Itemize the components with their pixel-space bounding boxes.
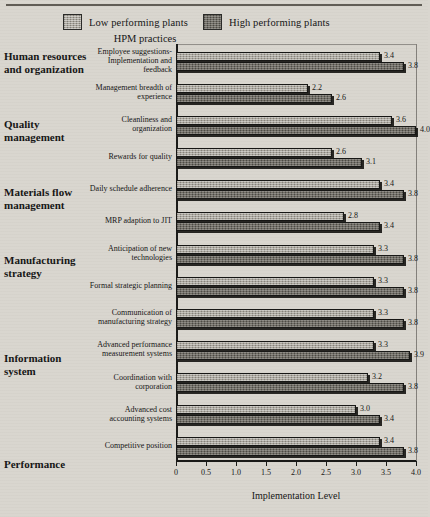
group-label-column: Human resources and organizationQuality … — [0, 0, 88, 517]
bar-value-label: 2.8 — [348, 211, 358, 220]
bar-value-label: 3.3 — [378, 308, 388, 317]
group-label: Quality management — [4, 118, 90, 143]
x-axis-tick-label: 0 — [174, 468, 178, 477]
bar-high-performing — [176, 319, 404, 328]
x-axis-tick — [326, 461, 327, 466]
bar-value-label: 3.8 — [408, 254, 418, 263]
x-axis-tick — [386, 461, 387, 466]
bar-value-label: 3.3 — [378, 244, 388, 253]
x-axis-tick-label: 3.5 — [381, 468, 391, 477]
bar-high-performing — [176, 222, 380, 231]
bar-value-label: 2.6 — [336, 93, 346, 102]
x-axis-tick — [296, 461, 297, 466]
bar-low-performing — [176, 180, 380, 189]
x-axis-title: Implementation Level — [176, 490, 416, 501]
x-axis-tick-label: 1.5 — [261, 468, 271, 477]
practice-label: Competitive position — [88, 441, 172, 450]
bar-low-performing — [176, 341, 374, 350]
group-label: Manufacturing strategy — [4, 254, 90, 279]
x-axis-tick-label: 3.0 — [351, 468, 361, 477]
bar-value-label: 3.9 — [414, 350, 424, 359]
x-axis-tick-label: 2.0 — [291, 468, 301, 477]
bar-value-label: 3.3 — [378, 276, 388, 285]
group-label: Materials flow management — [4, 186, 90, 211]
x-axis-tick — [206, 461, 207, 466]
x-axis-tick — [416, 461, 417, 466]
bar-low-performing — [176, 84, 308, 93]
bar-value-label: 2.6 — [336, 147, 346, 156]
plot-frame-top — [176, 44, 416, 45]
bar-value-label: 3.4 — [384, 51, 394, 60]
bar-value-label: 3.2 — [372, 372, 382, 381]
practice-label: MRP adaption to JIT — [88, 216, 172, 225]
group-label: Information system — [4, 352, 90, 377]
bar-low-performing — [176, 373, 368, 382]
x-axis-tick-label: 0.5 — [201, 468, 211, 477]
bar-high-performing — [176, 94, 332, 103]
bar-value-label: 3.8 — [408, 286, 418, 295]
bar-low-performing — [176, 116, 392, 125]
bar-value-label: 3.8 — [408, 382, 418, 391]
bar-value-label: 4.0 — [420, 125, 430, 134]
practice-label: Management breadth of experience — [88, 83, 172, 101]
practice-label: Anticipation of new technologies — [88, 244, 172, 262]
group-label: Human resources and organization — [4, 50, 90, 75]
bar-value-label: 3.6 — [396, 115, 406, 124]
x-axis-tick-label: 1.0 — [231, 468, 241, 477]
bar-low-performing — [176, 148, 332, 157]
bar-value-label: 3.8 — [408, 189, 418, 198]
bar-high-performing — [176, 255, 404, 264]
bar-value-label: 3.8 — [408, 446, 418, 455]
practice-label: Employee suggestions-Implementation and … — [88, 47, 172, 74]
bar-low-performing — [176, 309, 374, 318]
bar-value-label: 2.2 — [312, 83, 322, 92]
practice-label: Formal strategic planning — [88, 281, 172, 290]
practice-label: Rewards for quality — [88, 152, 172, 161]
bar-low-performing — [176, 437, 380, 446]
practice-label: Coordination with corporation — [88, 373, 172, 391]
x-axis-tick — [236, 461, 237, 466]
legend-label-high: High performing plants — [229, 17, 330, 28]
x-axis-tick — [176, 461, 177, 466]
bar-high-performing — [176, 351, 410, 360]
bar-low-performing — [176, 52, 380, 61]
bar-value-label: 3.8 — [408, 61, 418, 70]
bar-high-performing — [176, 62, 404, 71]
x-axis-tick-label: 4.0 — [411, 468, 421, 477]
bar-high-performing — [176, 190, 404, 199]
bar-low-performing — [176, 277, 374, 286]
bar-low-performing — [176, 245, 374, 254]
bar-value-label: 3.4 — [384, 179, 394, 188]
x-axis-tick-label: 2.5 — [321, 468, 331, 477]
bar-value-label: 3.1 — [366, 157, 376, 166]
practice-label: Advanced performance measurement systems — [88, 340, 172, 358]
bar-high-performing — [176, 415, 380, 424]
bar-high-performing — [176, 447, 404, 456]
bar-value-label: 3.4 — [384, 414, 394, 423]
bar-low-performing — [176, 212, 344, 221]
bar-high-performing — [176, 383, 404, 392]
bar-high-performing — [176, 287, 404, 296]
legend-swatch-high-icon — [203, 14, 222, 30]
practice-label-column: Employee suggestions-Implementation and … — [88, 0, 174, 517]
bar-value-label: 3.4 — [384, 221, 394, 230]
practice-label: Cleanliness and organization — [88, 115, 172, 133]
practice-label: Advanced cost accounting systems — [88, 405, 172, 423]
x-axis-tick — [356, 461, 357, 466]
bar-high-performing — [176, 158, 362, 167]
group-label: Performance — [4, 458, 90, 471]
plot-area: 3.43.82.22.63.64.02.63.13.43.82.83.43.33… — [176, 44, 416, 462]
practice-label: Daily schedule adherence — [88, 184, 172, 193]
bar-value-label: 3.8 — [408, 318, 418, 327]
x-axis-tick — [266, 461, 267, 466]
bar-low-performing — [176, 405, 356, 414]
bar-high-performing — [176, 126, 416, 135]
bar-value-label: 3.3 — [378, 340, 388, 349]
practice-label: Communication of manufacturing strategy — [88, 308, 172, 326]
legend-item-high-performing: High performing plants — [203, 14, 330, 30]
bar-value-label: 3.4 — [384, 436, 394, 445]
bar-value-label: 3.0 — [360, 404, 370, 413]
